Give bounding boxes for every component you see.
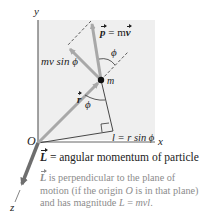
L-symbol-sub: L <box>40 172 46 185</box>
particle-label: m <box>107 76 114 86</box>
caption-mvl: mvl <box>135 197 150 208</box>
phi-lower-label: ϕ <box>85 99 91 110</box>
v-symbol: v <box>126 27 131 38</box>
momentum-label: p = mv <box>100 27 131 38</box>
caption-line2b: is in that plane) <box>133 185 199 196</box>
perp-component-label: mv sin ϕ <box>41 56 78 67</box>
caption-main: L = angular momentum of particle <box>40 151 199 163</box>
L-symbol: L <box>40 151 47 163</box>
y-axis-label: y <box>34 6 39 17</box>
caption-line2a: motion (if the origin <box>40 185 125 196</box>
caption-sub: L is perpendicular to the plane of motio… <box>40 172 217 210</box>
lever-arm-label: l = r sin ϕ <box>112 133 154 144</box>
x-axis-label: x <box>158 136 163 147</box>
r-label: r <box>77 94 81 105</box>
phi-upper-label: ϕ <box>111 47 117 58</box>
caption-line1: is perpendicular to the plane of <box>46 172 175 183</box>
caption-O: O <box>125 185 132 196</box>
caption-main-text: = angular momentum of particle <box>47 151 199 163</box>
origin-label: O <box>27 135 36 147</box>
caption-end: . <box>150 197 153 208</box>
p-symbol: p <box>100 27 106 38</box>
caption-line3a: and has magnitude <box>40 197 119 208</box>
lever-arm-eq: = r sin ϕ <box>115 132 154 143</box>
particle-m <box>98 77 104 83</box>
momentum-eq: = m <box>106 26 126 38</box>
z-axis-label: z <box>10 202 14 213</box>
z-axis <box>15 190 20 202</box>
plane-of-motion <box>38 20 155 140</box>
caption-eq: = <box>125 197 136 208</box>
L-vector <box>22 143 38 184</box>
